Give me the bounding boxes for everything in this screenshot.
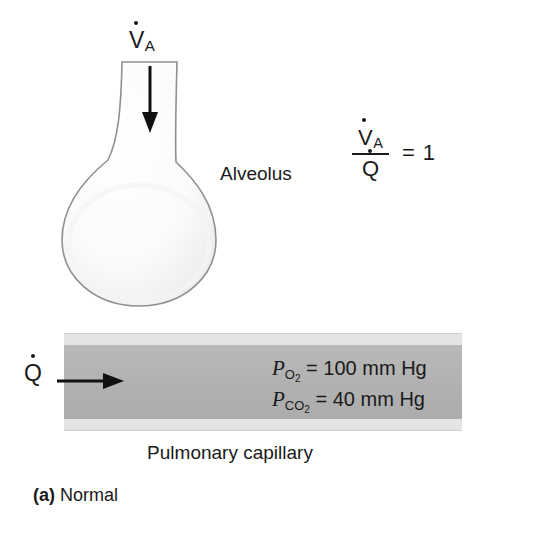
- overdot-icon: [362, 118, 366, 122]
- gas-row-o2: PO2 = 100 mm Hg: [272, 354, 427, 385]
- pressure-symbol-co2: P: [272, 387, 285, 411]
- numerator-v-dot-variable: V: [358, 126, 373, 149]
- alveolus-shape: [62, 62, 216, 306]
- figure-panel-a: V A Alveolus V A Q = 1 Q: [0, 0, 546, 533]
- q-dot-variable: Q: [24, 362, 42, 385]
- panel-caption: (a) Normal: [33, 486, 118, 504]
- caption-text: Normal: [60, 485, 118, 505]
- caption-letter: (a): [33, 485, 55, 505]
- overdot-icon: [31, 354, 35, 358]
- equals-co2: =: [315, 388, 327, 410]
- value-co2: 40: [333, 388, 355, 410]
- pressure-subscript-co2: CO2: [285, 398, 310, 413]
- overdot-icon: [368, 149, 372, 153]
- gas-row-co2: PCO2 = 40 mm Hg: [272, 385, 427, 416]
- gas-partial-pressures: PO2 = 100 mm Hg PCO2 = 40 mm Hg: [272, 354, 427, 416]
- subscript-a: A: [145, 38, 155, 53]
- denominator-q-dot-variable: Q: [362, 157, 379, 180]
- numerator-subscript: A: [373, 136, 383, 151]
- overdot-icon: [134, 21, 138, 25]
- pulmonary-capillary-label: Pulmonary capillary: [0, 443, 460, 462]
- blood-flow-label: Q: [24, 362, 42, 385]
- ratio-equals: = 1: [402, 140, 436, 166]
- units-o2: mm Hg: [362, 357, 426, 379]
- equals-o2: =: [306, 357, 318, 379]
- pressure-symbol-o2: P: [272, 356, 285, 380]
- pressure-subscript-o2: O2: [285, 367, 301, 382]
- value-o2: 100: [323, 357, 356, 379]
- units-co2: mm Hg: [361, 388, 425, 410]
- v-dot-variable: V: [129, 29, 144, 52]
- ventilation-perfusion-ratio: V A Q = 1: [352, 124, 436, 183]
- ratio-fraction: V A Q: [352, 124, 389, 183]
- alveolar-ventilation-label: V A: [129, 29, 155, 54]
- ratio-denominator: Q: [356, 155, 385, 182]
- alveolus-label: Alveolus: [220, 164, 292, 183]
